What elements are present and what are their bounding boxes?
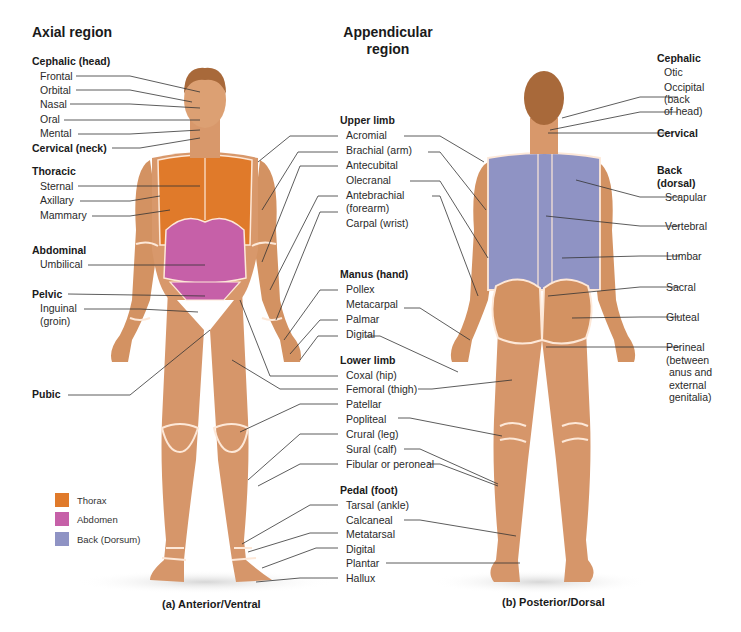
label-plantar: Plantar <box>346 557 379 570</box>
label-cervical-posterior: Cervical <box>657 127 698 140</box>
label-acromial: Acromial <box>346 129 387 142</box>
label-brachial: Brachial (arm) <box>346 144 412 157</box>
label-antebrachial: Antebrachial (forearm) <box>346 189 404 215</box>
appendicular-heading-line2: region <box>367 41 410 57</box>
label-antebrachial-line1: Antebrachial <box>346 189 404 201</box>
label-popliteal: Popliteal <box>346 413 386 426</box>
label-cephalic-head: Cephalic (head) <box>32 55 110 68</box>
label-mammary: Mammary <box>40 209 87 222</box>
label-femoral: Femoral (thigh) <box>346 383 417 396</box>
label-cephalic-posterior: Cephalic <box>657 52 701 65</box>
label-sural: Sural (calf) <box>346 443 397 456</box>
label-occipital: Occipital (back of head) <box>664 81 704 117</box>
label-mental: Mental <box>40 127 72 140</box>
label-fibular: Fibular or peroneal <box>346 458 434 471</box>
label-antebrachial-line2: (forearm) <box>346 202 389 214</box>
label-perineal-line4: external <box>669 379 706 391</box>
label-nasal: Nasal <box>40 98 67 111</box>
label-manus: Manus (hand) <box>340 268 408 281</box>
label-occipital-line2: (back <box>664 93 690 105</box>
label-crural: Crural (leg) <box>346 428 399 441</box>
back-swatch <box>55 532 69 546</box>
label-occipital-line1: Occipital <box>664 81 704 93</box>
legend-label-back: Back (Dorsum) <box>77 534 140 545</box>
label-upper-limb: Upper limb <box>340 114 395 127</box>
label-perineal-line2: (between <box>666 354 709 366</box>
label-metatarsal: Metatarsal <box>346 528 395 541</box>
label-sacral: Sacral <box>666 281 696 294</box>
label-digital-foot: Digital <box>346 543 375 556</box>
label-inguinal-line2: (groin) <box>40 315 70 327</box>
label-perineal: Perineal (between anus and external geni… <box>666 341 712 404</box>
axial-region-heading: Axial region <box>32 24 112 41</box>
label-carpal: Carpal (wrist) <box>346 217 408 230</box>
label-tarsal: Tarsal (ankle) <box>346 499 409 512</box>
label-cervical-neck: Cervical (neck) <box>32 142 107 155</box>
label-vertebral: Vertebral <box>665 220 707 233</box>
legend-label-thorax: Thorax <box>77 495 107 506</box>
label-metacarpal: Metacarpal <box>346 298 398 311</box>
label-palmar: Palmar <box>346 313 379 326</box>
label-inguinal: Inguinal (groin) <box>40 302 77 328</box>
legend-item-abdomen: Abdomen <box>55 512 118 526</box>
label-pelvic: Pelvic <box>32 288 62 301</box>
label-orbital: Orbital <box>40 84 71 97</box>
label-back-dorsal: Back (dorsal) <box>657 164 696 190</box>
label-olecranal: Olecranal <box>346 174 391 187</box>
label-sternal: Sternal <box>40 180 73 193</box>
label-scapular: Scapular <box>665 191 706 204</box>
label-pollex: Pollex <box>346 283 375 296</box>
legend-item-back: Back (Dorsum) <box>55 532 140 546</box>
label-abdominal: Abdominal <box>32 244 86 257</box>
legend-label-abdomen: Abdomen <box>77 514 118 525</box>
appendicular-heading-line1: Appendicular <box>343 24 432 40</box>
label-frontal: Frontal <box>40 70 73 83</box>
label-oral: Oral <box>40 113 60 126</box>
label-calcaneal: Calcaneal <box>346 514 393 527</box>
label-antecubital: Antecubital <box>346 159 398 172</box>
label-umbilical: Umbilical <box>40 258 83 271</box>
label-patellar: Patellar <box>346 398 382 411</box>
label-otic: Otic <box>664 66 683 79</box>
label-digital-hand: Digital <box>346 328 375 341</box>
label-occipital-line3: of head) <box>664 105 703 117</box>
abdomen-swatch <box>55 512 69 526</box>
label-perineal-line5: genitalia) <box>669 391 712 403</box>
thorax-swatch <box>55 493 69 507</box>
label-thoracic: Thoracic <box>32 165 76 178</box>
label-inguinal-line1: Inguinal <box>40 302 77 314</box>
caption-posterior: (b) Posterior/Dorsal <box>502 596 605 608</box>
legend-item-thorax: Thorax <box>55 493 107 507</box>
appendicular-region-heading: Appendicular region <box>338 24 438 58</box>
label-back-line1: Back <box>657 164 682 176</box>
label-axillary: Axillary <box>40 194 74 207</box>
label-pubic: Pubic <box>32 388 61 401</box>
label-perineal-line1: Perineal <box>666 341 705 353</box>
label-coxal: Coxal (hip) <box>346 369 397 382</box>
label-gluteal: Gluteal <box>666 311 699 324</box>
caption-anterior: (a) Anterior/Ventral <box>162 598 261 610</box>
label-hallux: Hallux <box>346 572 375 585</box>
label-back-line2: (dorsal) <box>657 177 696 189</box>
label-pedal: Pedal (foot) <box>340 484 398 497</box>
label-lower-limb: Lower limb <box>340 354 395 367</box>
label-perineal-line3: anus and <box>669 366 712 378</box>
label-lumbar: Lumbar <box>666 250 702 263</box>
